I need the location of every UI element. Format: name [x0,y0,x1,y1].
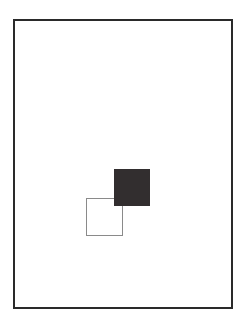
page-frame [13,19,233,309]
filled-square [114,169,150,206]
